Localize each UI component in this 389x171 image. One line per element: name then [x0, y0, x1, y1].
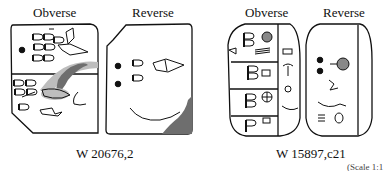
right-obverse-signs — [229, 32, 298, 132]
left-caption: W 20676,2 — [76, 147, 134, 161]
left-reverse-signs — [115, 59, 184, 120]
right-caption: W 15897,c21 — [276, 147, 346, 161]
footer-fragment: (Scale 1:1 — [347, 162, 383, 171]
left-obverse-signs — [14, 28, 88, 116]
left-reverse-damage — [162, 96, 192, 134]
right-reverse-tablet — [306, 24, 372, 136]
right-reverse-signs — [317, 57, 349, 123]
